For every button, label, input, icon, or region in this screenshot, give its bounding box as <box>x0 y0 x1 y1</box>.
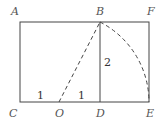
label-c: C <box>9 107 18 120</box>
label-o: O <box>55 107 64 120</box>
label-d: D <box>95 107 105 120</box>
label-e: E <box>145 107 154 120</box>
length-co: 1 <box>37 89 44 102</box>
label-a: A <box>10 5 19 18</box>
golden-rectangle-diagram: A B F C O D E 1 1 2 <box>0 0 160 121</box>
label-f: F <box>146 5 155 18</box>
label-b: B <box>95 5 104 18</box>
length-bd: 2 <box>104 56 111 69</box>
length-od: 1 <box>78 89 85 102</box>
